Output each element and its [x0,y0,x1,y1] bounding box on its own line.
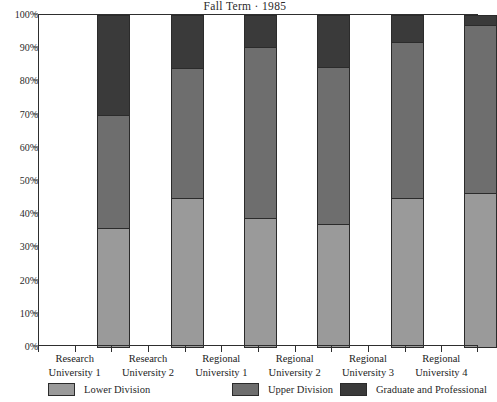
bar-1 [97,15,130,347]
bar-segment [317,66,350,225]
bar-segment [317,15,350,68]
bar-segment [244,15,277,48]
legend-swatch [48,383,75,396]
bar-segment [244,218,277,349]
x-axis-label-6: RegionalUniversity 4 [395,352,487,379]
legend-label: Upper Division [268,384,333,395]
bar-2 [171,15,204,347]
bar-segment [391,15,424,43]
legend-item-3[interactable]: Graduate and Professional [340,381,487,397]
bar-segment [97,15,130,116]
chart-legend: Lower DivisionUpper DivisionGraduate and… [0,381,490,401]
bar-segment [171,198,204,349]
bar-segment [317,224,350,348]
bar-segment [97,115,130,229]
bar-4 [317,15,350,347]
bar-segment [171,68,204,199]
x-axis-label-line: Regional [395,352,487,366]
bar-segment [464,15,497,26]
x-axis-label-line: University 4 [395,366,487,380]
legend-label: Graduate and Professional [376,384,487,395]
bar-segment [391,42,424,199]
legend-swatch [232,383,259,396]
chart-title: Fall Term · 1985 [0,0,490,12]
bar-segment [171,15,204,69]
bar-segment [391,198,424,349]
legend-swatch [340,383,367,396]
y-axis: 100%90%80%70%60%50%40%30%20%10%0% [0,0,38,402]
bar-segment [244,47,277,219]
legend-item-2[interactable]: Upper Division [232,381,333,397]
bar-5 [391,15,424,347]
plot-area [38,14,478,346]
bar-segment [97,227,130,348]
bar-6 [464,15,497,347]
bar-segment [464,25,497,194]
legend-label: Lower Division [84,384,150,395]
bar-3 [244,15,277,347]
legend-item-1[interactable]: Lower Division [48,381,150,397]
bar-segment [464,193,497,348]
